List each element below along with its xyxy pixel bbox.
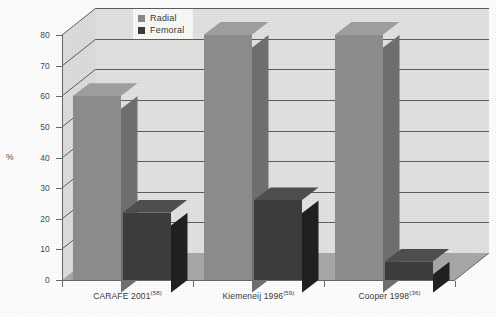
x-tick-3 (455, 281, 456, 287)
y-tick-label-20: 20 (26, 214, 50, 224)
y-tick-label-80: 80 (26, 30, 50, 40)
gridline-30 (96, 161, 489, 162)
x-label-1: CARAFE 2001(58) (93, 290, 162, 301)
y-tick-80 (56, 35, 63, 36)
y-tick-30 (56, 188, 63, 189)
bar-side-face (171, 213, 188, 293)
y-axis-title: % (6, 152, 14, 162)
y-tick-label-70: 70 (26, 61, 50, 71)
y-tick-label-30: 30 (26, 183, 50, 193)
bar-femoral-3 (385, 262, 433, 280)
y-tick-50 (56, 127, 63, 128)
y-tick-70 (56, 66, 63, 67)
x-label-reference: (58) (151, 290, 162, 296)
x-label-text: Kiemeneij 1996 (223, 291, 284, 301)
bar-front-face (73, 96, 121, 280)
y-tick-label-0: 0 (26, 275, 50, 285)
x-label-3: Cooper 1998(36) (358, 290, 420, 301)
bar-chart-3d: 01020304050607080 % CARAFE 2001(58)Kieme… (0, 0, 496, 317)
legend-label-femoral: Femoral (150, 25, 184, 35)
bar-front-face (123, 213, 171, 280)
x-tick-0 (62, 281, 63, 287)
bar-radial-1 (73, 96, 121, 280)
y-tick-label-50: 50 (26, 122, 50, 132)
legend-item-femoral: Femoral (138, 24, 184, 36)
x-label-text: CARAFE 2001 (93, 291, 150, 301)
bar-front-face (385, 262, 433, 280)
bar-radial-3 (335, 35, 383, 280)
y-tick-label-40: 40 (26, 153, 50, 163)
x-tick-2 (324, 281, 325, 287)
gridline-40 (96, 131, 489, 132)
y-tick-60 (56, 96, 63, 97)
x-label-reference: (36) (409, 290, 420, 296)
gridline-60 (96, 69, 489, 70)
legend-swatch-femoral (138, 27, 145, 34)
bar-femoral-1 (123, 213, 171, 280)
legend-swatch-radial (138, 15, 145, 22)
y-tick-10 (56, 249, 63, 250)
bar-radial-2 (204, 35, 252, 280)
bar-side-face (302, 200, 319, 293)
x-label-text: Cooper 1998 (358, 291, 409, 301)
bar-femoral-2 (254, 200, 302, 280)
x-label-2: Kiemeneij 1996(59) (223, 290, 295, 301)
x-label-reference: (59) (283, 290, 294, 296)
chart-legend: Radial Femoral (133, 9, 193, 39)
chart-screenshot: 01020304050607080 % CARAFE 2001(58)Kieme… (0, 0, 496, 317)
y-tick-40 (56, 158, 63, 159)
legend-label-radial: Radial (150, 13, 177, 23)
bar-front-face (335, 35, 383, 280)
bar-front-face (254, 200, 302, 280)
bar-front-face (204, 35, 252, 280)
x-axis-right-edge (455, 253, 490, 281)
y-tick-label-60: 60 (26, 91, 50, 101)
x-tick-1 (193, 281, 194, 287)
legend-item-radial: Radial (138, 12, 184, 24)
y-tick-20 (56, 219, 63, 220)
y-tick-label-10: 10 (26, 244, 50, 254)
gridline-50 (96, 100, 489, 101)
